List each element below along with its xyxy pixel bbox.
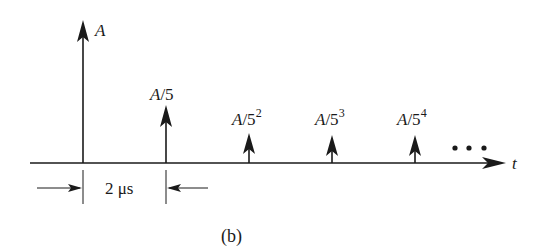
spacing-dimension: 2 μs <box>37 170 208 204</box>
impulse-train-diagram: t A A/5 A/52 A/53 A/54 <box>0 0 540 252</box>
impulse-0: A <box>77 20 106 163</box>
impulse-label-2: A/52 <box>231 106 262 129</box>
impulse-2: A/52 <box>231 106 262 163</box>
impulse-1: A/5 <box>149 85 174 163</box>
time-axis: t <box>30 154 518 173</box>
impulse-label-0: A <box>94 21 106 40</box>
impulse-label-3: A/53 <box>314 106 345 129</box>
impulse-3: A/53 <box>314 106 345 163</box>
impulse-label-4: A/54 <box>396 106 427 129</box>
spacing-label: 2 μs <box>105 179 133 198</box>
impulse-label-1: A/5 <box>149 85 174 104</box>
continuation-dots-icon <box>452 145 486 150</box>
impulse-4: A/54 <box>396 106 427 163</box>
axis-label-t: t <box>512 154 518 173</box>
figure-caption: (b) <box>221 226 242 247</box>
